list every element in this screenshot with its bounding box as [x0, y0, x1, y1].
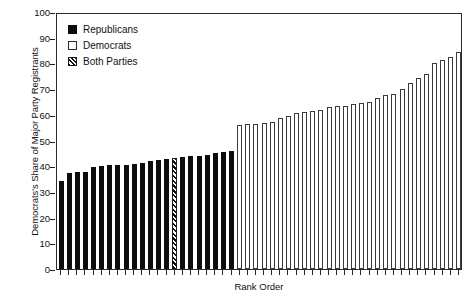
bar-dem [383, 95, 388, 269]
y-axis-tick-mark [50, 142, 55, 143]
y-axis-tick-label: 90 [26, 34, 50, 44]
x-axis-tick-mark [125, 270, 126, 275]
x-axis-tick-mark [312, 270, 313, 275]
y-axis-tick-mark [50, 90, 55, 91]
x-axis-tick-mark [458, 270, 459, 275]
y-axis-tick-label: 100 [26, 8, 50, 18]
x-axis-tick-mark [174, 270, 175, 275]
legend-swatch-democrats-icon [68, 41, 77, 50]
bar-rep [205, 155, 210, 269]
x-axis-tick-mark [393, 270, 394, 275]
y-axis-tick-label: 0 [26, 265, 50, 275]
bar-rep [229, 151, 234, 269]
x-axis-tick-mark [296, 270, 297, 275]
bar-rep [188, 156, 193, 269]
y-axis-tick-label: 10 [26, 239, 50, 249]
x-axis-tick-mark [442, 270, 443, 275]
x-axis-tick-mark [263, 270, 264, 275]
bar-rep [115, 165, 120, 269]
bar-dem [302, 112, 307, 269]
legend-item-republicans: Republicans [68, 22, 198, 37]
x-axis-tick-mark [369, 270, 370, 275]
bar-rep [75, 172, 80, 269]
chart-legend: Republicans Democrats Both Parties [68, 22, 198, 70]
bar-dem [351, 104, 356, 270]
bar-rep [164, 159, 169, 270]
x-axis-tick-mark [336, 270, 337, 275]
x-axis-tick-mark [231, 270, 232, 275]
x-axis-tick-mark [279, 270, 280, 275]
x-axis-tick-mark [198, 270, 199, 275]
x-axis-tick-mark [84, 270, 85, 275]
x-axis-tick-mark [328, 270, 329, 275]
x-axis-tick-mark [377, 270, 378, 275]
x-axis-tick-mark [206, 270, 207, 275]
chart-figure: Democrats's Share of Major Party Registr… [0, 0, 474, 306]
x-axis-tick-mark [166, 270, 167, 275]
bar-rep [180, 157, 185, 269]
x-axis-tick-mark [101, 270, 102, 275]
x-axis-tick-mark [93, 270, 94, 275]
x-axis-tick-mark [182, 270, 183, 275]
x-axis-tick-mark [417, 270, 418, 275]
x-axis-tick-mark [255, 270, 256, 275]
bar-dem [408, 83, 413, 269]
bar-dem [318, 110, 323, 269]
bar-dem [400, 89, 405, 269]
x-axis-tick-mark [401, 270, 402, 275]
y-axis-tick-label: 40 [26, 162, 50, 172]
y-axis-tick-mark [50, 167, 55, 168]
bar-dem [456, 52, 461, 269]
x-axis-tick-mark [352, 270, 353, 275]
bar-rep [124, 165, 129, 269]
y-axis-tick-label: 70 [26, 85, 50, 95]
x-axis-tick-mark [157, 270, 158, 275]
y-axis-tick-mark [50, 193, 55, 194]
y-axis-tick-mark [50, 244, 55, 245]
x-axis-tick-mark [109, 270, 110, 275]
legend-item-democrats: Democrats [68, 38, 198, 53]
y-axis-tick-label: 80 [26, 59, 50, 69]
x-axis-tick-mark [190, 270, 191, 275]
y-axis-tick-label: 30 [26, 188, 50, 198]
x-axis-tick-mark [68, 270, 69, 275]
bar-dem [286, 116, 291, 269]
x-axis-label: Rank Order [56, 281, 462, 292]
bar-both [172, 158, 177, 269]
x-axis-tick-mark [450, 270, 451, 275]
y-axis-tick-mark [50, 270, 55, 271]
x-axis-tick-mark [76, 270, 77, 275]
x-axis-tick-mark [60, 270, 61, 275]
x-axis-tick-mark [434, 270, 435, 275]
y-axis-tick-mark [50, 13, 55, 14]
bar-rep [148, 161, 153, 269]
x-axis-tick-marks [56, 270, 462, 276]
bar-dem [375, 98, 380, 269]
x-axis-tick-mark [344, 270, 345, 275]
bar-dem [253, 124, 258, 269]
x-axis-tick-mark [141, 270, 142, 275]
x-axis-tick-mark [320, 270, 321, 275]
x-axis-tick-mark [360, 270, 361, 275]
bar-dem [367, 102, 372, 269]
bar-rep [140, 163, 145, 269]
x-axis-tick-mark [214, 270, 215, 275]
y-axis-tick-label: 60 [26, 111, 50, 121]
bar-dem [278, 118, 283, 269]
y-axis-tick-label: 20 [26, 214, 50, 224]
x-axis-tick-mark [385, 270, 386, 275]
x-axis-tick-mark [409, 270, 410, 275]
bar-dem [245, 124, 250, 269]
bar-dem [359, 103, 364, 269]
bar-dem [237, 125, 242, 269]
y-axis-tick-labels: 0102030405060708090100 [22, 0, 50, 306]
bar-rep [67, 173, 72, 269]
bar-dem [416, 78, 421, 269]
x-axis-tick-mark [149, 270, 150, 275]
y-axis-tick-mark [50, 219, 55, 220]
bar-dem [440, 60, 445, 269]
y-axis-tick-mark [50, 64, 55, 65]
legend-label-republicans: Republicans [83, 24, 138, 35]
x-axis-tick-mark [247, 270, 248, 275]
bar-dem [294, 113, 299, 269]
